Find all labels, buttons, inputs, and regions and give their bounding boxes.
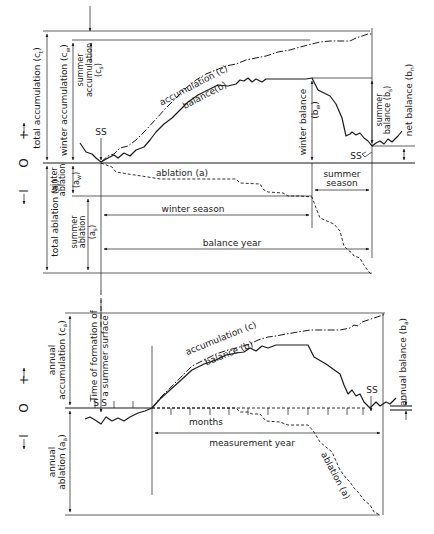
winter-balance-label-2: (bw) [310, 101, 321, 119]
summer-surface-label-1: Time of formation of [89, 309, 99, 403]
top-panel: + O I [17, 6, 415, 330]
annual-balance-label: annual balance (ba) [398, 318, 409, 406]
accumulation-curve-bottom [152, 314, 386, 408]
net-balance-label: net balance (bn) [404, 64, 415, 136]
annual-accumulation-label-1: annual [47, 345, 57, 376]
ss-end-marker: SS [350, 151, 362, 161]
winter-balance-label-1: winter balance [298, 88, 308, 155]
total-accumulation-label: total accumulation (ct) [32, 47, 44, 148]
ss-end-squiggle [362, 152, 372, 157]
winter-accumulation-label: winter accumulation (cw) [59, 44, 71, 156]
sign-axis-bottom: + O I [17, 368, 31, 449]
summer-accumulation-label-3: (cs) [94, 63, 104, 77]
ss-start-marker: SS [95, 127, 107, 137]
ablation-curve-label-bottom: ablation (a) [319, 450, 352, 501]
sign-axis-top: + O I [17, 123, 31, 204]
bottom-panel: + O I [17, 300, 412, 515]
measurement-year-label: measurement year [209, 438, 295, 448]
zero-sign: O [17, 158, 31, 167]
balance-curve-top [80, 78, 402, 162]
annual-accumulation-label-2: accumulation (ca) [57, 320, 68, 399]
minus-sign: I [17, 189, 31, 193]
summer-accumulation-label-2: accumulation [85, 43, 94, 97]
winter-ablation-label-3: (aw) [72, 172, 82, 188]
ss-start-marker-s2: S [101, 398, 107, 408]
summer-season-label-2: season [326, 178, 358, 188]
winter-ablation-label-2: ablation [58, 164, 67, 196]
months-label: months [189, 417, 223, 427]
summer-accumulation-label-1: summer [76, 53, 85, 87]
ss-end-marker-bottom: SS [366, 385, 378, 395]
winter-season-label: winter season [162, 204, 225, 214]
balance-year-label: balance year [203, 238, 262, 248]
summer-ablation-label-2: ablation [78, 216, 87, 248]
summer-ablation-label-3: (as) [88, 225, 98, 239]
mass-balance-diagram: + O I [0, 0, 434, 534]
ablation-curve-label: ablation (a) [156, 168, 208, 178]
annual-ablation-label-2: ablation (aa) [57, 434, 68, 490]
zero-sign: O [17, 403, 31, 412]
summer-surface-label-2: a summer surface [100, 315, 110, 397]
summer-balance-label-2: balance (bs) [383, 86, 393, 135]
minus-sign: I [17, 434, 31, 438]
ss-start-marker-s1: S [93, 398, 99, 408]
annual-ablation-label-1: annual [47, 447, 57, 478]
